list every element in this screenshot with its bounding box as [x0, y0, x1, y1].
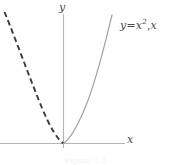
- parabola-figure: y x y=x2,x Figure 1.1: [0, 0, 171, 165]
- curve-equation-label: y=x2,x: [120, 20, 157, 31]
- parabola-right-branch-solid: [64, 15, 113, 144]
- parabola-left-branch-dashed: [5, 12, 64, 144]
- figure-caption: Figure 1.1: [0, 156, 171, 165]
- equation-domain-variable: x: [151, 19, 157, 32]
- equation-equals-sign: =: [126, 19, 135, 32]
- y-axis-label: y: [59, 2, 65, 13]
- x-axis-label: x: [127, 134, 133, 145]
